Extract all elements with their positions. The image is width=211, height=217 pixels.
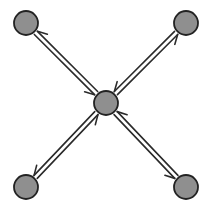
node-center bbox=[94, 91, 118, 115]
edge-line-forward bbox=[114, 31, 174, 91]
edge-line-backward bbox=[37, 31, 97, 91]
edge-line-forward bbox=[34, 34, 94, 94]
edge-line-forward bbox=[117, 112, 178, 176]
edge-bottom-left-to-center bbox=[34, 112, 98, 179]
edge-top-left-to-center bbox=[34, 31, 97, 94]
edge-line-backward bbox=[114, 115, 175, 179]
edge-line-backward bbox=[117, 34, 177, 94]
node-bottom-left bbox=[14, 175, 38, 199]
node-bottom-right bbox=[174, 175, 198, 199]
edge-line-backward bbox=[34, 112, 95, 176]
node-top-left bbox=[14, 11, 38, 35]
nodes-group bbox=[14, 11, 198, 199]
edge-top-right-to-center bbox=[114, 31, 177, 94]
star-network-diagram bbox=[0, 0, 211, 217]
edge-bottom-right-to-center bbox=[114, 112, 178, 179]
edge-line-forward bbox=[37, 115, 98, 179]
node-top-right bbox=[174, 11, 198, 35]
